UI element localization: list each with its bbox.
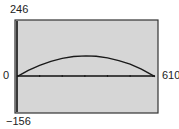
graph-screen: [0, 0, 179, 129]
